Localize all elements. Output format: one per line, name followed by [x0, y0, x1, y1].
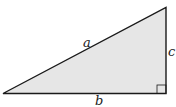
- label-a: a: [83, 35, 91, 50]
- label-b: b: [95, 93, 103, 107]
- triangle-diagram: a b c: [0, 0, 176, 107]
- right-triangle: [3, 8, 166, 94]
- label-c: c: [168, 44, 176, 59]
